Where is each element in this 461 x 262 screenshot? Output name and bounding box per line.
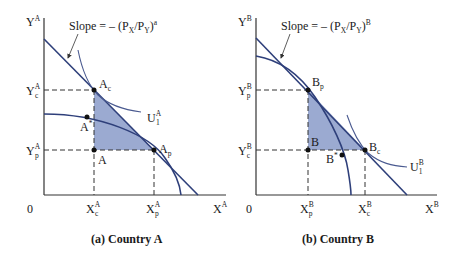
x-tick-xc-a: XAc (86, 200, 101, 218)
price-line-a (44, 39, 198, 195)
label-u1-b: UB1 (410, 158, 424, 176)
point-ap (152, 148, 157, 153)
y-axis-label-b: YB (238, 14, 252, 29)
origin-label-b: 0 (246, 202, 252, 216)
label-ac: Ac (99, 77, 112, 93)
x-tick-xc-b: XBc (358, 200, 372, 218)
point-ac (92, 88, 97, 93)
point-a (92, 148, 97, 153)
indifference-curve-a (78, 50, 141, 112)
y-tick-yc-a: YAc (26, 82, 41, 100)
y-tick-yp-b: YBp (238, 82, 252, 100)
label-b: B (311, 135, 319, 149)
label-u1-a: UA1 (147, 109, 162, 127)
origin-label-a: 0 (27, 202, 33, 216)
x-tick-xp-a: XAp (146, 200, 161, 218)
slope-pointer-b (281, 34, 290, 58)
slope-label-a: Slope = – (PX/PY)a (69, 18, 158, 35)
caption-country-b: (b) Country B (302, 232, 374, 246)
y-tick-yc-b: YBc (238, 142, 252, 160)
trade-gains-diagram: YA Slope = – (PX/PY)a YAc YAp 0 XAc XAp … (0, 0, 461, 262)
x-axis-label-b: XB (425, 200, 439, 216)
slope-pointer-a (68, 34, 78, 58)
label-b-star: B* (326, 151, 338, 166)
x-axis-label-a: XA (213, 200, 228, 216)
label-bp: Bp (312, 75, 324, 91)
point-b-star (340, 153, 345, 158)
point-b (306, 148, 311, 153)
label-a: A (98, 153, 107, 167)
x-tick-xp-b: XBp (300, 200, 314, 218)
caption-country-a: (a) Country A (91, 232, 163, 246)
point-bp (306, 88, 311, 93)
label-ap: Ap (159, 142, 172, 158)
panel-country-b: YB Slope = – (PX/PY)B YBp YBc 0 XBp XBc … (238, 14, 439, 246)
y-tick-yp-a: YAp (26, 142, 41, 160)
panel-country-a: YA Slope = – (PX/PY)a YAc YAp 0 XAc XAp … (26, 14, 228, 246)
slope-label-b: Slope = – (PX/PY)B (281, 18, 371, 35)
price-line-b (256, 38, 407, 195)
y-axis-label-a: YA (26, 14, 41, 29)
point-bc (363, 148, 368, 153)
label-bc: Bc (369, 140, 381, 156)
label-a-star: A* (80, 119, 93, 134)
